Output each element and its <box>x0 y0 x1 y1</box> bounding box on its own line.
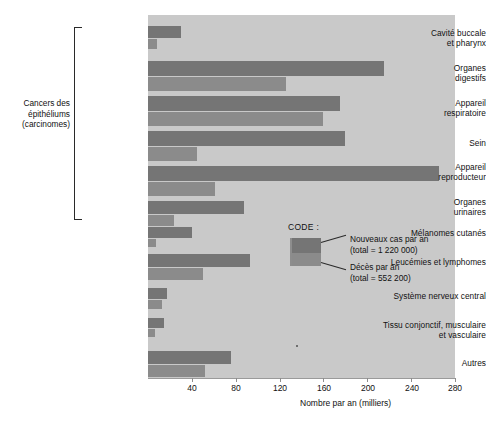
x-tick-label-160: 160 <box>309 383 339 393</box>
x-tick-160 <box>323 378 324 382</box>
x-tick-200 <box>367 378 368 382</box>
carcinoma-group-label: Cancers des épithéliums (carcinomes) <box>6 98 70 130</box>
bar-deaths-breast <box>148 147 197 161</box>
category-label-respiratory-system: Appareil respiratoire <box>362 98 486 118</box>
x-tick-label-200: 200 <box>353 383 383 393</box>
x-axis-title: Nombre par an (milliers) <box>300 398 391 408</box>
bar-new-cases-mouth-pharynx <box>148 26 181 38</box>
category-label-others: Autres <box>342 358 486 368</box>
bar-new-cases-connective-tissue <box>148 318 164 328</box>
bar-new-cases-respiratory-system <box>148 96 340 111</box>
category-label-mouth-pharynx: Cavité buccale et pharynx <box>362 28 486 48</box>
carcinoma-group-bracket <box>74 27 82 220</box>
label-line: Tissu conjonctif, musculaire <box>342 320 486 330</box>
label-line: Organes <box>362 63 486 73</box>
bar-new-cases-cutaneous-melanoma <box>148 227 192 238</box>
x-tick-120 <box>280 378 281 382</box>
bar-new-cases-breast <box>148 131 345 146</box>
category-label-reproductive-system: Appareil reproducteur <box>362 162 486 182</box>
x-tick-240 <box>411 378 412 382</box>
label-line: Système nerveux central <box>342 291 486 301</box>
category-label-connective-tissue: Tissu conjonctif, musculaire et vasculai… <box>342 320 486 340</box>
legend-entry-label: Décès par an <box>350 262 411 273</box>
bar-new-cases-others <box>148 351 231 364</box>
bar-deaths-digestive-organs <box>148 77 286 91</box>
x-tick-label-80: 80 <box>221 383 251 393</box>
x-tick-label-120: 120 <box>265 383 295 393</box>
category-label-digestive-organs: Organes digestifs <box>362 63 486 83</box>
legend-entry-total: (total = 552 200) <box>350 273 411 284</box>
label-line: Autres <box>342 358 486 368</box>
label-line: Cavité buccale <box>362 28 486 38</box>
legend-swatch-new-cases <box>292 238 321 253</box>
group-label-line2: épithéliums <box>6 109 70 120</box>
scan-speck <box>296 345 298 347</box>
bar-deaths-urinary-organs <box>148 215 174 226</box>
category-label-central-nervous-system: Système nerveux central <box>342 291 486 301</box>
label-line: digestifs <box>362 73 486 83</box>
legend-entry-total: (total = 1 220 000) <box>350 245 428 256</box>
bar-new-cases-digestive-organs <box>148 61 384 76</box>
label-line: et vasculaire <box>342 330 486 340</box>
bar-deaths-cutaneous-melanoma <box>148 239 156 247</box>
legend-title: CODE : <box>288 222 319 232</box>
bar-new-cases-urinary-organs <box>148 201 244 214</box>
label-line: reproducteur <box>362 172 486 182</box>
legend-swatch-stack <box>290 238 321 266</box>
x-tick-label-280: 280 <box>440 383 470 393</box>
group-label-line1: Cancers des <box>6 98 70 109</box>
bar-deaths-leukemia-lymphoma <box>148 268 203 280</box>
category-label-urinary-organs: Organes urinaires <box>362 197 486 217</box>
bar-deaths-respiratory-system <box>148 112 323 126</box>
bar-deaths-central-nervous-system <box>148 300 162 309</box>
x-tick-label-40: 40 <box>177 383 207 393</box>
x-tick-80 <box>236 378 237 382</box>
x-tick-280 <box>455 378 456 382</box>
bar-new-cases-central-nervous-system <box>148 288 167 299</box>
x-tick-40 <box>192 378 193 382</box>
label-line: Sein <box>362 138 486 148</box>
x-axis-line <box>148 378 455 379</box>
legend-entry-new-cases: Nouveaux cas par an (total = 1 220 000) <box>350 234 428 255</box>
chart-root: Cancers des épithéliums (carcinomes) Cav… <box>0 0 486 426</box>
label-line: urinaires <box>362 207 486 217</box>
label-line: Appareil <box>362 98 486 108</box>
legend-entry-deaths: Décès par an (total = 552 200) <box>350 262 411 283</box>
bar-deaths-connective-tissue <box>148 329 155 337</box>
legend-swatch-deaths <box>292 253 321 266</box>
bar-deaths-others <box>148 365 205 377</box>
bar-deaths-reproductive-system <box>148 182 215 196</box>
bar-new-cases-leukemia-lymphoma <box>148 254 250 267</box>
label-line: et pharynx <box>362 38 486 48</box>
label-line: Organes <box>362 197 486 207</box>
bar-deaths-mouth-pharynx <box>148 39 157 49</box>
label-line: Appareil <box>362 162 486 172</box>
label-line: respiratoire <box>362 108 486 118</box>
category-label-breast: Sein <box>362 138 486 148</box>
legend-entry-label: Nouveaux cas par an <box>350 234 428 245</box>
group-label-line3: (carcinomes) <box>6 119 70 130</box>
x-tick-label-240: 240 <box>397 383 427 393</box>
